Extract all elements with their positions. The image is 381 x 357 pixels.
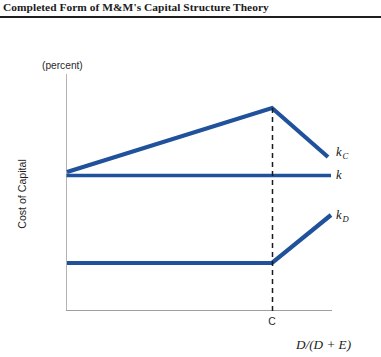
curve-label-k-base: k [336,168,342,182]
curve-label-kc-base: k [336,145,342,159]
y-axis-units-label: (percent) [42,60,83,71]
chart-plot-area: (percent) Cost of Capital C D/(D + E) kC… [0,0,381,357]
curve-label-kd: kD [336,208,348,223]
curve-label-kc: kC [336,145,347,160]
curve-label-kc-subscript: C [343,151,349,161]
x-axis-tick-label-c: C [262,316,282,327]
curve-kc [67,108,328,172]
curve-label-kd-base: k [336,208,342,222]
curve-kd [67,215,331,263]
curve-label-kd-subscript: D [343,214,349,224]
x-axis-title: D/(D + E) [296,337,381,353]
figure-root: Completed Form of M&M's Capital Structur… [0,0,381,357]
curve-label-k: k [336,168,342,183]
chart-curves-svg [0,0,381,357]
y-axis-title: Cost of Capital [16,129,28,259]
